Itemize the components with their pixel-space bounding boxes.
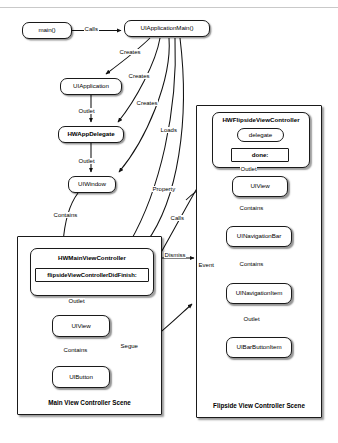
edge-label-outlet-uiapplication: Outlet	[78, 108, 95, 114]
node-main-uiview[interactable]: UIView	[52, 315, 110, 337]
edge-label-property: Property	[152, 186, 176, 192]
scene-label-flipside-view-controller: Flipside View Controller Scene	[196, 402, 322, 409]
edge-property-main-scene	[146, 38, 183, 243]
edge-label-outlet-fvc: Outlet	[240, 166, 257, 172]
edge-label-creates-hwappdelegate: Creates	[128, 73, 150, 79]
edge-label-outlet-hwappdelegate: Outlet	[78, 158, 95, 164]
group-hwflipsideviewcontroller-title: HWFlipsideViewController	[212, 116, 310, 123]
edge-creates-uiapplication	[106, 38, 150, 74]
edge-loads-main-scene	[130, 38, 175, 242]
edge-label-dismiss: Dismiss	[164, 252, 186, 258]
edge-label-creates-uiapplication: Creates	[119, 49, 141, 55]
edge-label-outlet-mvc: Outlet	[68, 298, 85, 304]
node-main-uibutton[interactable]: UIButton	[52, 366, 110, 388]
node-flipsideviewcontrollerdidfinish[interactable]: flipsideViewControllerDidFinish:	[35, 268, 149, 282]
edge-label-event: Event	[198, 262, 215, 268]
node-hwappdelegate[interactable]: HWAppDelegate	[58, 126, 124, 143]
node-delegate-property[interactable]: delegate	[237, 128, 284, 142]
edge-label-calls-main: Calls	[84, 26, 99, 32]
node-uiapplicationmain[interactable]: UIApplicationMain()	[124, 20, 210, 37]
node-uiapplication[interactable]: UIApplication	[60, 78, 122, 95]
node-uiwindow[interactable]: UIWindow	[68, 176, 116, 193]
edge-label-calls-done: Calls	[170, 215, 185, 221]
edge-label-contains-navbar: Contains	[239, 261, 264, 267]
edge-label-segue: Segue	[120, 343, 139, 349]
edge-label-contains-fvc-uiview: Contains	[239, 205, 264, 211]
diagram-canvas: HWMainViewController HWFlipsideViewContr…	[0, 0, 338, 443]
node-done-action[interactable]: done:	[231, 148, 289, 162]
node-main[interactable]: main()	[22, 22, 72, 39]
node-uinavigationbar[interactable]: UINavigationBar	[226, 226, 292, 247]
edge-label-contains-uiwindow: Contains	[53, 212, 78, 218]
edge-label-creates-uiwindow: Creates	[136, 100, 158, 106]
edge-label-loads: Loads	[160, 127, 178, 133]
edge-label-outlet-navitem: Outlet	[243, 316, 260, 322]
node-flipside-uiview[interactable]: UIView	[232, 176, 288, 197]
node-uinavigationitem[interactable]: UINavigationItem	[226, 283, 292, 304]
group-hwmainviewcontroller-title: HWMainViewController	[30, 254, 154, 261]
edge-label-contains-mvc-uiview: Contains	[63, 347, 88, 353]
node-uibarbuttonitem[interactable]: UIBarButtonItem	[226, 337, 292, 358]
scene-label-main-view-controller: Main View Controller Scene	[17, 399, 162, 406]
